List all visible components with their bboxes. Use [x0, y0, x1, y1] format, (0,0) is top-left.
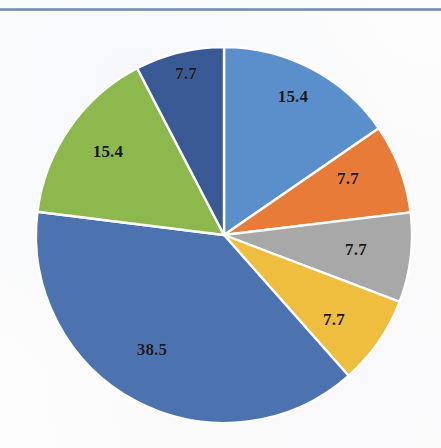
- pie-chart: 15.47.77.77.738.515.47.7: [0, 14, 441, 448]
- chart-page: 15.47.77.77.738.515.47.7: [0, 0, 441, 448]
- pie-slice-label-slice-1: 15.4: [278, 87, 309, 107]
- pie-slice-label-slice-2: 7.7: [337, 169, 359, 189]
- pie-slice-label-slice-7: 7.7: [175, 64, 197, 84]
- pie-slice-label-slice-5: 38.5: [137, 340, 168, 360]
- pie-slice-label-slice-3: 7.7: [345, 240, 367, 260]
- pie-chart-svg: [0, 14, 441, 448]
- pie-slice-label-slice-4: 7.7: [323, 310, 345, 330]
- pie-slice-label-slice-6: 15.4: [93, 142, 124, 162]
- header-divider-rule: [0, 8, 441, 11]
